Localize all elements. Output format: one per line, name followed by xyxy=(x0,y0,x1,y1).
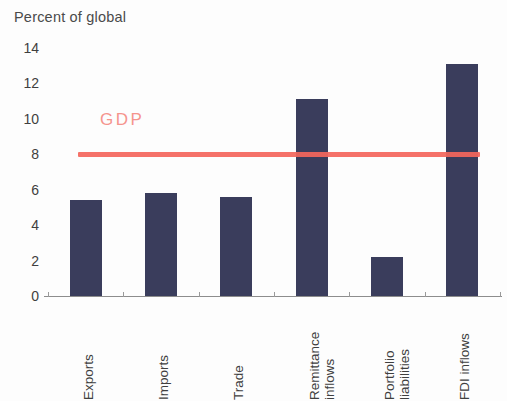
y-tick-label: 4 xyxy=(31,218,39,232)
x-axis-label-line: inflows xyxy=(322,304,337,400)
bar xyxy=(446,64,478,296)
bar xyxy=(296,99,328,296)
y-tick-label: 10 xyxy=(23,112,39,126)
y-tick-label: 8 xyxy=(31,147,39,161)
x-axis-label-line: Imports xyxy=(156,355,171,400)
x-axis-label-line: Remittance xyxy=(307,332,322,400)
x-axis-label: Portfolioliabilities xyxy=(382,304,412,400)
x-axis-labels: ExportsImportsTradeRemittanceinflowsPort… xyxy=(48,300,500,401)
gdp-reference-label: GDP xyxy=(100,110,144,130)
x-axis-label-line: liabilities xyxy=(397,304,412,400)
x-axis-label-line: Trade xyxy=(231,365,246,400)
x-axis-label-line: FDI inflows xyxy=(457,333,472,400)
plot-area xyxy=(48,48,500,296)
bar xyxy=(371,257,403,296)
y-tick-label: 12 xyxy=(23,76,39,90)
y-tick-label: 0 xyxy=(31,289,39,303)
x-axis-label: FDI inflows xyxy=(457,304,472,400)
bar xyxy=(145,193,177,296)
bar xyxy=(70,200,102,296)
chart-title: Percent of global xyxy=(14,9,126,25)
x-axis-label: Remittanceinflows xyxy=(307,304,337,400)
x-axis-tick xyxy=(500,292,501,297)
bar xyxy=(220,197,252,296)
x-axis-label-line: Portfolio xyxy=(382,350,397,400)
x-axis-label: Exports xyxy=(81,304,96,400)
x-axis-label: Imports xyxy=(156,304,171,400)
y-axis: 14121086420 xyxy=(0,40,48,310)
bar-chart: Percent of global 14121086420 ExportsImp… xyxy=(0,0,507,401)
y-tick-label: 14 xyxy=(23,41,39,55)
x-axis-baseline xyxy=(44,296,502,297)
y-tick-label: 6 xyxy=(31,183,39,197)
y-tick-label: 2 xyxy=(31,254,39,268)
x-axis-label: Trade xyxy=(231,304,246,400)
gdp-reference-line xyxy=(78,152,480,157)
x-axis-label-line: Exports xyxy=(81,354,96,400)
